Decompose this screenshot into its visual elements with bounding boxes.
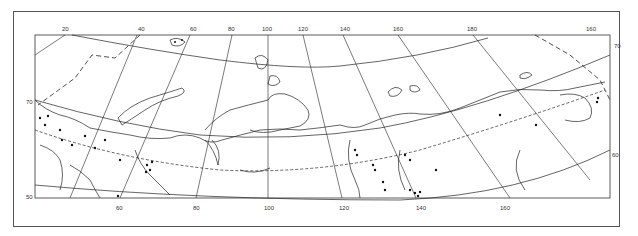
bottom-longitude-labels: 60 80 100 120 140 160 bbox=[116, 205, 511, 211]
wrangel-island bbox=[520, 73, 532, 79]
lon-label-160: 160 bbox=[393, 26, 404, 32]
lon-label-b160: 160 bbox=[500, 205, 511, 211]
lon-label-100: 100 bbox=[262, 26, 273, 32]
graticule-meridians bbox=[35, 35, 590, 198]
lon-label-b140: 140 bbox=[416, 205, 427, 211]
parallel-80 bbox=[72, 35, 488, 67]
lon-label-80: 80 bbox=[228, 26, 235, 32]
map-canvas: 20 40 60 80 100 120 140 160 180 160 60 8… bbox=[0, 0, 638, 236]
observation-sites bbox=[39, 39, 599, 197]
lat-label-left-70: 70 bbox=[26, 99, 33, 105]
lon-label-60: 60 bbox=[190, 26, 197, 32]
lon-label-40: 40 bbox=[138, 26, 145, 32]
lon-label-b120: 120 bbox=[339, 205, 350, 211]
taymyr bbox=[205, 94, 309, 133]
lon-label-180: 180 bbox=[467, 26, 478, 32]
mainland-coast bbox=[35, 82, 605, 142]
novaya-zemlya bbox=[118, 88, 184, 125]
new-siberian-islands bbox=[388, 86, 420, 97]
coastlines bbox=[35, 38, 605, 198]
lon-label-20: 20 bbox=[62, 26, 69, 32]
lon-label-140: 140 bbox=[340, 26, 351, 32]
lon-label-b60: 60 bbox=[116, 205, 123, 211]
lat-label-left-50: 50 bbox=[26, 194, 33, 200]
severnaya-zemlya bbox=[255, 55, 280, 85]
long-dash-border bbox=[38, 35, 610, 105]
lon-label-160w: 160 bbox=[586, 26, 597, 32]
lat-label-right-60: 60 bbox=[612, 152, 619, 158]
lat-label-right-70: 70 bbox=[614, 43, 621, 49]
lon-label-b100: 100 bbox=[264, 205, 275, 211]
lon-label-b80: 80 bbox=[193, 205, 200, 211]
lon-label-120: 120 bbox=[298, 26, 309, 32]
parallel-60 bbox=[35, 150, 610, 200]
dashed-boundary-line bbox=[35, 90, 605, 171]
top-longitude-labels: 20 40 60 80 100 120 140 160 180 160 bbox=[62, 26, 597, 32]
